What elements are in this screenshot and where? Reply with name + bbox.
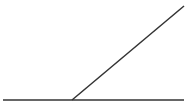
ray-line (72, 6, 184, 100)
angle-diagram (0, 0, 190, 107)
angle-figure (0, 0, 190, 107)
